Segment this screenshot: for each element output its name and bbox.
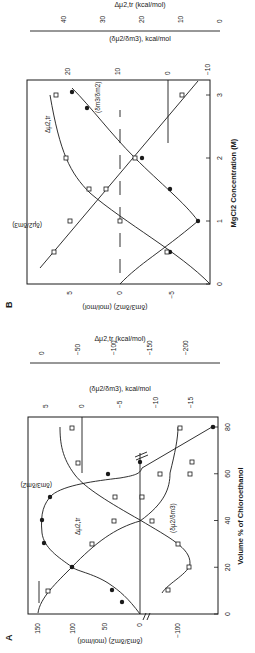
svg-text:5: 5 [42, 404, 49, 408]
svg-text:−150: −150 [146, 340, 153, 355]
svg-text:3: 3 [216, 93, 223, 97]
panel-a: A 0 20 40 60 80 Volume % of Chloroethano… [4, 397, 245, 645]
panel-b-xlabel: MgCl2 Concentration (M) [229, 138, 238, 227]
panel-a-letter: A [4, 634, 14, 641]
svg-text:0: 0 [136, 623, 143, 627]
svg-text:20: 20 [224, 563, 231, 571]
svg-text:100: 100 [69, 623, 76, 634]
svg-text:40: 40 [60, 15, 67, 23]
svg-text:−10: −10 [152, 397, 159, 408]
panel-a-annot-dmu: Δμ2,tr [74, 517, 82, 535]
panel-a-x-axis: 0 20 40 60 80 Volume % of Chloroethanol [214, 423, 245, 616]
panel-b-right-outer-ylabel: Δμ2,tr (kcal/mol) [114, 1, 165, 9]
panel-b-left-ylabel: (δm3/δm2) (mol/mol) [83, 303, 148, 311]
panel-a-frame [28, 417, 218, 614]
svg-text:150: 150 [34, 623, 41, 634]
panel-b-annot-dmu: Δμ2,tr [44, 115, 52, 133]
panel-b-right-outer-axis: 40 30 20 10 0 Δμ2,tr (kcal/mol) [30, 1, 223, 31]
svg-text:5: 5 [66, 291, 73, 295]
panel-b-left-axis: 5 0 −5 (δm3/δm2) (mol/mol) [66, 291, 175, 311]
panel-b-x-axis: 0 1 2 3 MgCl2 Concentration (M) [206, 93, 238, 286]
panel-a-right-outer-ylabel: Δμ2,tr (kcal/mol) [94, 335, 145, 343]
panel-b-letter: B [4, 301, 14, 308]
svg-text:0: 0 [216, 282, 223, 286]
panel-a-right-inner-axis: 5 0 −5 −10 −15 [42, 397, 194, 408]
panel-b: B 0 1 2 3 MgCl2 Concentration (M) 5 0 −5… [4, 1, 238, 311]
figure: A 0 20 40 60 80 Volume % of Chloroethano… [0, 0, 255, 653]
svg-text:20: 20 [138, 15, 145, 23]
svg-text:0: 0 [38, 351, 45, 355]
svg-text:−100: −100 [110, 340, 117, 355]
svg-text:30: 30 [99, 15, 106, 23]
panel-b-right-inner-ylabel: (δμ2/δm3), kcal/mol [109, 35, 171, 43]
svg-text:−5: −5 [116, 400, 123, 408]
panel-a-left-ylabel: (δm3/δm2) (mol/mol) [78, 637, 143, 645]
svg-text:0: 0 [78, 404, 85, 408]
svg-text:10: 10 [114, 67, 121, 75]
panel-a-annot-dmu2dm3: (δμ2/δm3) [169, 503, 177, 533]
panel-a-left-axis: 150 100 50 0 −100 (δm3/δm2) (mol/mol) [34, 613, 181, 645]
svg-text:1: 1 [216, 219, 223, 223]
svg-text:−100: −100 [174, 623, 181, 638]
panel-a-annot-dm3dm2: (δm3/δm2) [21, 481, 52, 489]
svg-text:40: 40 [224, 517, 231, 525]
svg-text:−15: −15 [187, 397, 194, 408]
svg-text:50: 50 [101, 623, 108, 631]
svg-text:0: 0 [224, 612, 231, 616]
panel-a-right-outer-axis: 0 −50 −100 −150 −200 Δμ2,tr (kcal/mol) [30, 335, 220, 363]
panel-a-xlabel: Volume % of Chloroethanol [236, 467, 245, 564]
svg-text:2: 2 [216, 156, 223, 160]
svg-text:0: 0 [164, 71, 171, 75]
svg-text:80: 80 [224, 423, 231, 431]
panel-b-right-inner-axis: 20 10 0 −10 (δμ2/δm3), kcal/mol [64, 35, 211, 75]
panel-a-right-inner-ylabel: (δμ2/δm3), kcal/mol [89, 385, 151, 393]
svg-text:10: 10 [177, 15, 184, 23]
panel-b-annot-dm3dm2: (δm3/δm2) [94, 82, 102, 113]
svg-text:−50: −50 [74, 344, 81, 355]
svg-text:20: 20 [64, 67, 71, 75]
svg-text:−200: −200 [182, 340, 189, 355]
svg-text:−10: −10 [204, 64, 211, 75]
svg-text:60: 60 [224, 470, 231, 478]
svg-text:−5: −5 [168, 291, 175, 299]
svg-text:0: 0 [116, 291, 123, 295]
svg-text:0: 0 [216, 19, 223, 23]
panel-b-annot-dmu2dm3: (δμ2/δm3) [12, 221, 42, 229]
